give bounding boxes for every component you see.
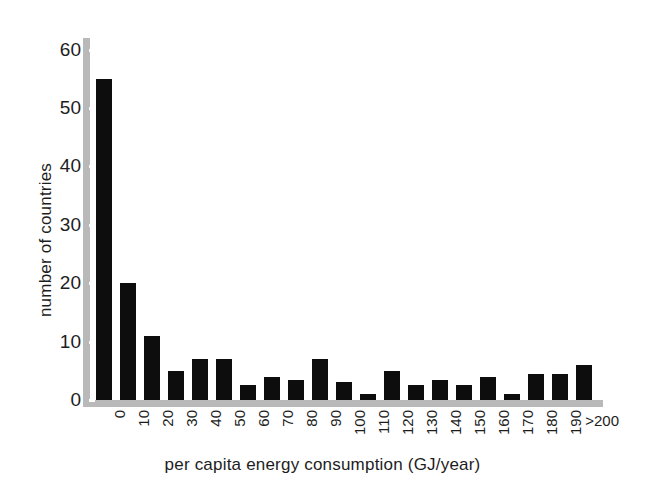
y-tick-mark — [89, 399, 95, 402]
y-tick-label: 40 — [60, 155, 81, 177]
bar — [120, 283, 136, 400]
y-tick-mark — [89, 341, 95, 344]
bar — [144, 336, 160, 400]
x-tick-label: 10 — [135, 410, 152, 427]
x-tick-label: 30 — [183, 410, 200, 427]
y-tick-label: 30 — [60, 214, 81, 236]
y-tick-label: 20 — [60, 272, 81, 294]
bar — [360, 394, 376, 400]
x-tick-label: 190 — [567, 410, 584, 435]
bar — [552, 374, 568, 400]
bar — [216, 359, 232, 400]
x-tick-label: 170 — [519, 410, 536, 435]
y-tick-label: 10 — [60, 331, 81, 353]
y-tick-mark — [89, 282, 95, 285]
y-tick-mark — [89, 107, 95, 110]
bar — [312, 359, 328, 400]
y-axis-title: number of countries — [36, 90, 56, 390]
bar — [288, 380, 304, 400]
y-axis-spine — [83, 38, 90, 402]
y-tick-mark — [89, 165, 95, 168]
bar — [408, 385, 424, 400]
chart-figure: number of countries 0102030405060 010203… — [0, 0, 645, 499]
bar — [96, 79, 112, 400]
x-tick-label: 150 — [471, 410, 488, 435]
y-tick-label: 0 — [70, 389, 81, 411]
x-axis-spine — [83, 400, 603, 407]
bar — [528, 374, 544, 400]
bar — [384, 371, 400, 400]
x-tick-label: 160 — [495, 410, 512, 435]
x-tick-label: 0 — [111, 410, 128, 418]
bar — [432, 380, 448, 400]
y-tick-label: 60 — [60, 39, 81, 61]
x-tick-label: 140 — [447, 410, 464, 435]
bar — [240, 385, 256, 400]
plot-area: 0102030405060 01020304050607080901001101… — [92, 38, 596, 400]
x-tick-label: 180 — [543, 410, 560, 435]
x-tick-label: 100 — [351, 410, 368, 435]
bar — [192, 359, 208, 400]
x-tick-label: 110 — [375, 410, 392, 434]
y-tick-mark — [89, 224, 95, 227]
x-tick-label: 120 — [399, 410, 416, 435]
x-tick-label: 40 — [207, 410, 224, 427]
bar — [504, 394, 520, 400]
x-tick-label: 60 — [255, 410, 272, 427]
bar — [456, 385, 472, 400]
y-tick-label: 50 — [60, 97, 81, 119]
bar — [336, 382, 352, 400]
x-axis-title: per capita energy consumption (GJ/year) — [0, 455, 645, 475]
x-tick-label: 70 — [279, 410, 296, 427]
x-tick-label: >200 — [585, 412, 619, 429]
y-tick-mark — [89, 49, 95, 52]
x-tick-label: 20 — [159, 410, 176, 427]
x-tick-label: 130 — [423, 410, 440, 435]
x-tick-label: 80 — [303, 410, 320, 427]
x-tick-label: 90 — [327, 410, 344, 427]
bar — [168, 371, 184, 400]
bar — [480, 377, 496, 400]
x-tick-label: 50 — [231, 410, 248, 427]
bar — [576, 365, 592, 400]
bar — [264, 377, 280, 400]
